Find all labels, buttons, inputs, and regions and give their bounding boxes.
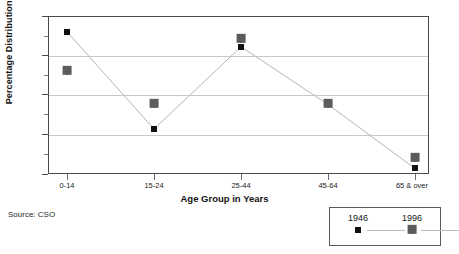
source-note: Source: CSO [8,210,55,219]
y-tick-10 [42,174,48,175]
x-tick-label-2: 25-44 [206,181,276,190]
legend-entry-1996: 1996 [384,212,440,224]
y-tick-minor-22-5 [44,75,48,76]
x-tick-label-3: 45-64 [293,181,363,190]
gridline-25 [49,56,428,57]
legend-line-1946 [367,230,405,231]
x-tick-label-4: 65 & over [377,181,447,190]
x-tick-4 [415,174,416,180]
legend-label-1996: 1996 [384,212,440,224]
y-tick-25 [42,55,48,56]
diamond-marker-icon [408,226,416,234]
x-tick-label-0: 0-14 [32,181,102,190]
y-tick-20 [42,94,48,95]
y-tick-30 [42,16,48,17]
legend-entry-1946: 1946 [330,212,386,224]
x-tick-3 [328,174,329,180]
chart-legend: 1946 1996 [329,207,441,246]
x-axis-title: Age Group in Years [0,193,449,204]
y-axis-title: Percentage Distribution % [4,0,14,132]
y-tick-15 [42,134,48,135]
y-tick-minor-27-5 [44,36,48,37]
y-tick-minor-12-5 [44,154,48,155]
gridline-20 [49,95,428,96]
y-tick-minor-17-5 [44,114,48,115]
gridline-15 [49,135,428,136]
x-tick-label-1: 15-24 [119,181,189,190]
x-tick-2 [241,174,242,180]
plot-area [48,16,429,174]
square-marker-icon [355,227,361,233]
x-tick-0 [67,174,68,180]
x-tick-1 [154,174,155,180]
legend-line-1996 [421,230,459,231]
legend-label-1946: 1946 [330,212,386,224]
